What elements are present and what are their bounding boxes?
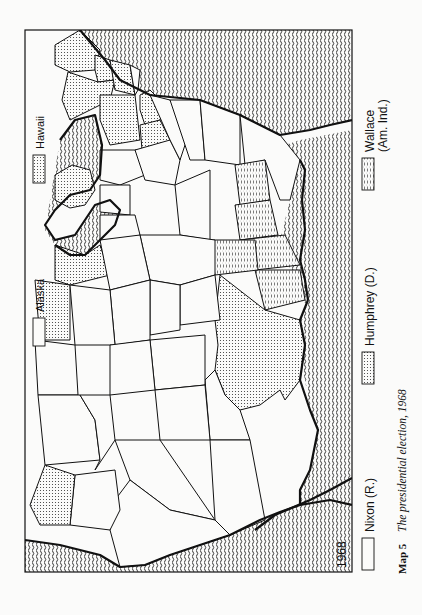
legend: Nixon (R.) Humphrey (D.) Wallace (Am. In… [362, 99, 390, 570]
state-colorado [150, 335, 205, 390]
election-map-1968: Hawaii Alaska 1968 Nixon (R.) Humphrey (… [0, 0, 422, 615]
hawaii-label: Hawaii [34, 116, 46, 149]
state-kansas [150, 280, 180, 335]
alaska-swatch [33, 318, 45, 346]
map-frame [25, 30, 352, 572]
wallace-swatch [362, 158, 374, 190]
state-south-dakota [70, 285, 115, 345]
gulf-of-mexico [300, 135, 352, 540]
state-north-dakota [35, 340, 78, 395]
state-alabama [235, 200, 278, 240]
state-arkansas [210, 240, 258, 275]
state-missouri [140, 235, 215, 285]
humphrey-label: Humphrey (D.) [363, 267, 377, 346]
wallace-label-line1: Wallace [363, 109, 377, 152]
caption-title: The presidential election, 1968 [396, 389, 409, 532]
hawaii-swatch [33, 155, 45, 183]
alaska-label: Alaska [34, 278, 46, 312]
state-oregon [70, 470, 120, 530]
state-georgia [235, 160, 270, 205]
caption-number: Map 5 [396, 543, 408, 574]
state-nebraska [110, 280, 150, 345]
humphrey-swatch [362, 352, 374, 384]
state-wyoming [110, 340, 155, 395]
nixon-swatch [362, 538, 374, 570]
wallace-label-line2: (Am. Ind.) [376, 99, 390, 152]
year-label: 1968 [335, 541, 349, 568]
nixon-label: Nixon (R.) [363, 478, 377, 532]
state-indiana [100, 185, 130, 215]
caption: Map 5 The presidential election, 1968 [396, 389, 409, 574]
state-utah [155, 385, 210, 440]
